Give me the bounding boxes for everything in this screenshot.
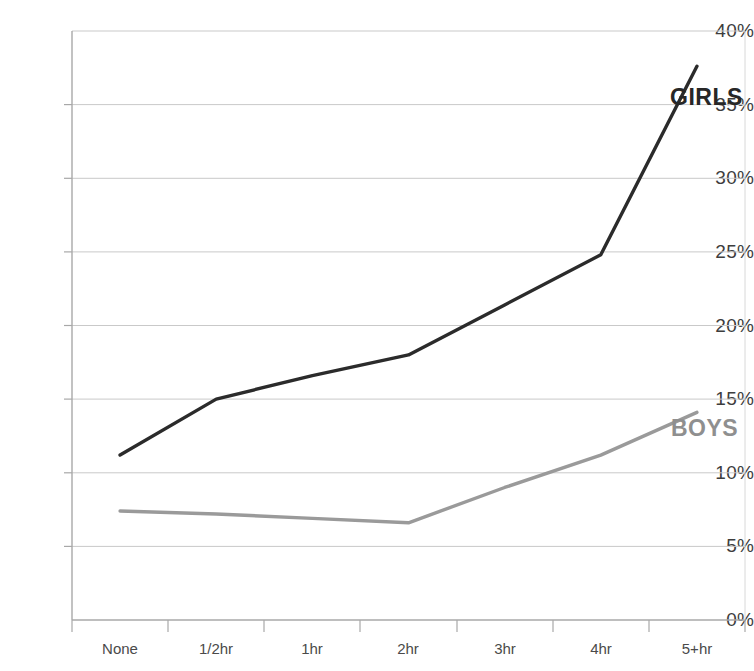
x-axis-tick-label: None bbox=[102, 640, 138, 657]
x-axis-tick-label: 5+hr bbox=[682, 640, 712, 657]
series-label-boys: BOYS bbox=[671, 415, 738, 442]
x-axis-ticks bbox=[72, 620, 745, 632]
x-axis-tick-label: 1hr bbox=[301, 640, 323, 657]
series-line-boys bbox=[120, 412, 697, 522]
series-line-girls bbox=[120, 66, 697, 455]
series-label-girls: GIRLS bbox=[670, 84, 743, 111]
x-axis-tick-label: 3hr bbox=[494, 640, 516, 657]
plot-area bbox=[0, 0, 754, 671]
line-chart: 40% 35% 30% 25% 20% 15% 10% 5% 0% bbox=[0, 0, 754, 671]
x-axis-tick-label: 4hr bbox=[590, 640, 612, 657]
x-axis-tick-label: 2hr bbox=[397, 640, 419, 657]
y-axis-ticks bbox=[64, 105, 72, 547]
gridlines bbox=[72, 31, 745, 546]
x-axis-tick-label: 1/2hr bbox=[199, 640, 233, 657]
